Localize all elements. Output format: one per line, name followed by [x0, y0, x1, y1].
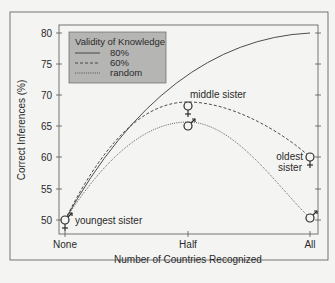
female-symbol-half	[184, 102, 192, 117]
female-symbol-all	[306, 153, 314, 168]
female-symbol-none	[61, 216, 69, 231]
outer-frame	[10, 12, 328, 260]
male-symbol-half	[184, 119, 195, 130]
x-tick-all: All	[304, 239, 315, 250]
x-axis-title: Number of Countries Recognized	[114, 254, 262, 265]
annotation-middle-sister: middle sister	[190, 89, 247, 100]
x-tick-half: Half	[179, 239, 197, 250]
y-tick-50: 50	[41, 215, 53, 226]
x-tick-none: None	[53, 239, 77, 250]
y-tick-60: 60	[41, 152, 53, 163]
y-tick-80: 80	[41, 28, 53, 39]
legend-label-random: random	[110, 67, 142, 78]
series-60-line	[65, 102, 310, 220]
y-tick-70: 70	[41, 90, 53, 101]
y-tick-65: 65	[41, 121, 53, 132]
annotation-oldest-sister-line2: sister	[278, 162, 303, 173]
y-tick-75: 75	[41, 59, 53, 70]
legend: Validity of Knowledge 80% 60% random	[69, 32, 166, 83]
annotation-youngest-sister: youngest sister	[75, 215, 143, 226]
series-random-line	[65, 122, 310, 220]
y-axis-title: Correct Inferences (%)	[16, 80, 27, 181]
annotation-oldest-sister-line1: oldest	[276, 151, 303, 162]
y-tick-55: 55	[41, 184, 53, 195]
legend-title: Validity of Knowledge	[75, 36, 165, 47]
chart: 80 75 70 65 60 55 50 None Half All Numbe…	[0, 0, 335, 283]
